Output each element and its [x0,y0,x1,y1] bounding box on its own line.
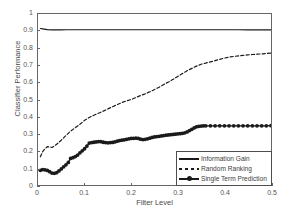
x-tick-label: 0.3 [166,189,190,197]
y-tick-mark [37,13,40,14]
y-axis-label: Classifier Performance [13,14,22,144]
series-marker [213,124,217,128]
y-tick-mark [37,82,40,83]
series-marker [232,124,236,128]
x-tick-mark [131,183,132,186]
x-axis-label: Filter Level [37,198,272,207]
series-marker [255,124,259,128]
y-tick-label: 0.1 [7,165,33,173]
y-tick-mark [37,169,40,170]
series-marker [241,124,245,128]
series-marker [85,144,89,148]
x-tick-label: 0.4 [213,189,237,197]
chart-legend: Information Gain Random Ranking Single T… [176,151,272,186]
legend-label: Information Gain [201,154,250,164]
series-marker [227,124,231,128]
legend-label: Single Term Prediction [201,174,267,184]
legend-item-single-term-prediction: Single Term Prediction [177,174,271,184]
series-marker [260,124,264,128]
x-tick-label: 0.1 [72,189,96,197]
series-marker [246,124,250,128]
series-line-0 [40,29,271,30]
legend-label: Random Ranking [201,164,252,174]
legend-item-information-gain: Information Gain [177,154,271,164]
series-marker [250,124,254,128]
series-marker [236,124,240,128]
y-tick-mark [37,186,40,187]
legend-swatch-marker-line-icon [177,174,201,184]
y-tick-mark [37,134,40,135]
y-tick-mark [37,65,40,66]
y-tick-mark [37,117,40,118]
x-tick-label: 0.5 [260,189,284,197]
x-tick-label: 0 [25,189,49,197]
y-tick-mark [37,48,40,49]
series-marker [269,124,271,128]
y-tick-mark [37,30,40,31]
series-marker [218,124,222,128]
x-tick-mark [84,183,85,186]
y-tick-label: 0.2 [7,147,33,155]
y-tick-mark [37,100,40,101]
chart-figure: 00.10.20.30.40.50.60.70.80.9100.10.20.30… [0,0,288,216]
series-marker [264,124,268,128]
series-marker [223,124,227,128]
series-marker [209,124,213,128]
series-marker [66,161,70,165]
series-marker [204,124,208,128]
x-tick-label: 0.2 [119,189,143,197]
legend-item-random-ranking: Random Ranking [177,164,271,174]
series-line-1 [40,53,271,157]
legend-swatch-dashed-line-icon [177,164,201,174]
legend-swatch-solid-line-icon [177,154,201,164]
x-tick-mark [37,183,38,186]
y-tick-mark [37,151,40,152]
